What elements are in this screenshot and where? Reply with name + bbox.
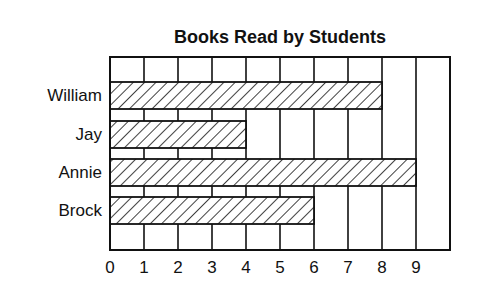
x-tick-label: 6	[304, 258, 324, 278]
category-label-jay: Jay	[76, 125, 102, 145]
x-tick-label: 4	[236, 258, 256, 278]
x-tick-label: 3	[202, 258, 222, 278]
x-tick-label: 5	[270, 258, 290, 278]
x-tick-label: 1	[134, 258, 154, 278]
category-label-william: William	[47, 86, 102, 106]
x-tick-label: 9	[406, 258, 426, 278]
bars	[110, 82, 416, 224]
bar-brock	[110, 197, 314, 224]
plot-area	[0, 0, 477, 297]
bar-william	[110, 82, 382, 109]
category-label-brock: Brock	[59, 201, 102, 221]
category-label-annie: Annie	[59, 163, 102, 183]
x-tick-label: 8	[372, 258, 392, 278]
bar-annie	[110, 159, 416, 186]
x-tick-label: 2	[168, 258, 188, 278]
x-tick-label: 0	[100, 258, 120, 278]
bar-jay	[110, 121, 246, 148]
x-tick-label: 7	[338, 258, 358, 278]
